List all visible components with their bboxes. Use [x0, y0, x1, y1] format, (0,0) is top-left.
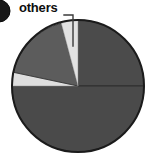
pie-chart-figure: others — [0, 0, 145, 164]
others-label: others — [19, 1, 58, 15]
pie-chart-canvas — [0, 0, 145, 164]
bullet-marker-icon — [0, 0, 10, 22]
pie-slice-segment-2 — [12, 86, 144, 152]
